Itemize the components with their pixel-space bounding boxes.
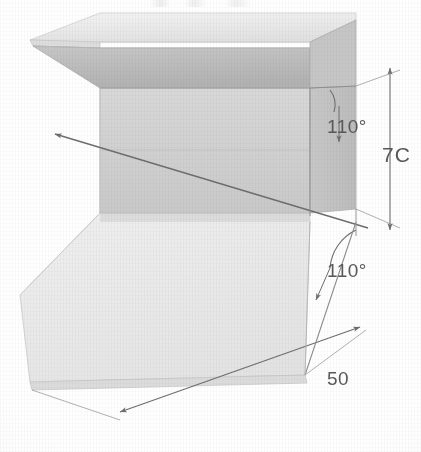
technical-drawing-canvas: 110° 110° 7C 50 [0, 0, 421, 452]
overall-height-label: 7C [382, 143, 411, 167]
height-extension-bottom [356, 209, 400, 228]
web-right-side-face [310, 86, 356, 213]
web-front-face [100, 88, 310, 213]
base-flange [20, 213, 310, 390]
flange-width-extension-b [32, 390, 120, 420]
lower-angle-label: 110° [327, 260, 367, 282]
top-flange-underside [33, 46, 310, 88]
height-extension-top [356, 70, 400, 86]
top-flange-top-face [30, 13, 356, 42]
bracket-solid [20, 13, 356, 390]
flange-width-label: 50 [327, 368, 349, 390]
top-flange [30, 13, 356, 88]
bracket-isometric-illustration [0, 0, 421, 452]
body-bottom-right-edge [305, 222, 356, 375]
upper-angle-label: 110° [327, 116, 367, 138]
vertical-web [100, 86, 356, 222]
web-lower-return [100, 213, 310, 222]
base-flange-top-face [20, 213, 310, 382]
